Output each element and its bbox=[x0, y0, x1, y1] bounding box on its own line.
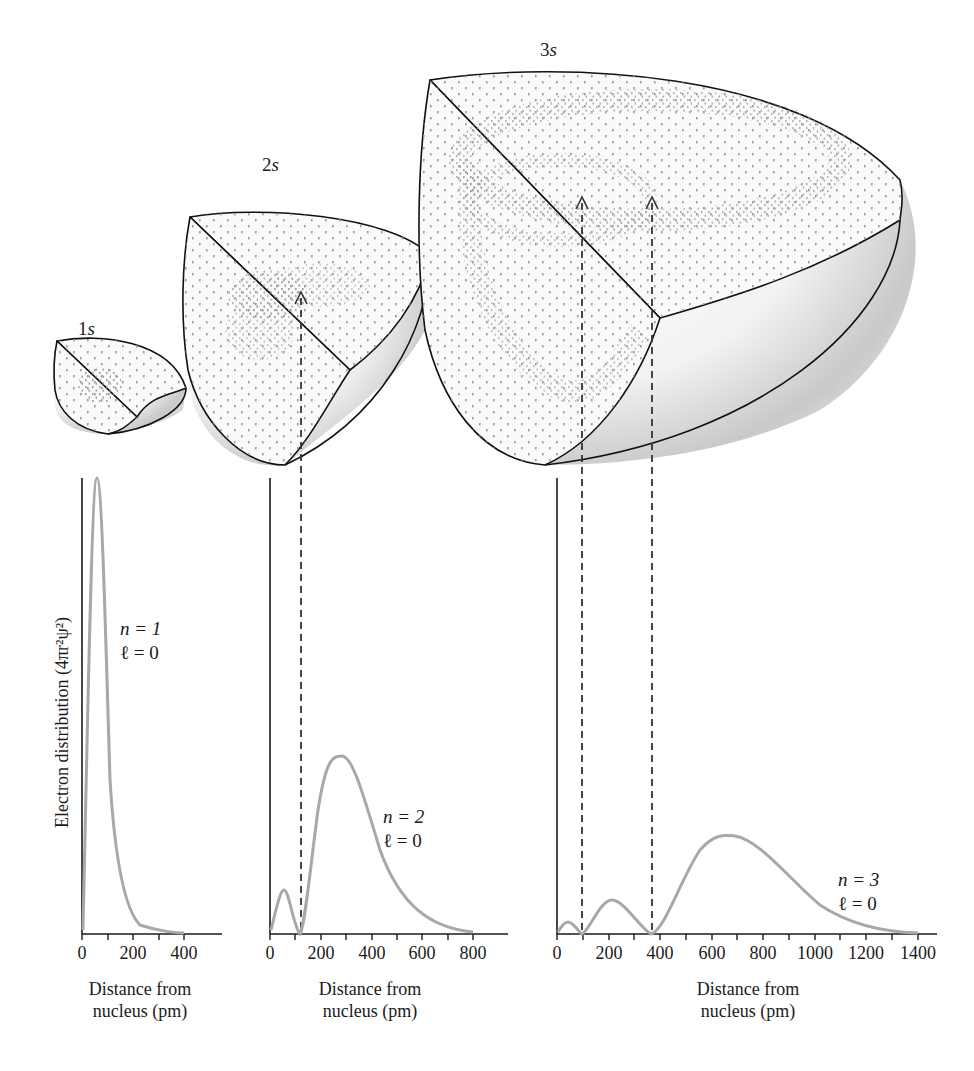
plot-1s bbox=[82, 478, 222, 940]
tick-label: 600 bbox=[699, 943, 726, 964]
orbital-letter: s bbox=[272, 154, 279, 175]
annotation-1s: n = 1 ℓ = 0 bbox=[120, 617, 161, 665]
tick-label: 1000 bbox=[797, 943, 833, 964]
n-label: n = 1 bbox=[120, 617, 161, 641]
tick-label: 0 bbox=[553, 943, 562, 964]
x-axis-label-line1: Distance from bbox=[89, 978, 191, 1000]
tick-label: 0 bbox=[266, 943, 275, 964]
curve-1s bbox=[83, 478, 184, 933]
x-axis-label-2s: Distance from nucleus (pm) bbox=[319, 978, 421, 1022]
x-axis-label-line1: Distance from bbox=[697, 978, 799, 1000]
tick-label: 400 bbox=[647, 943, 674, 964]
orbital-number: 3 bbox=[540, 39, 550, 60]
tick-label: 400 bbox=[359, 943, 386, 964]
tick-label: 400 bbox=[171, 943, 198, 964]
tick-label: 1400 bbox=[900, 943, 936, 964]
orbital-letter: s bbox=[88, 318, 95, 339]
plot-2s bbox=[270, 478, 508, 940]
annotation-3s: n = 3 ℓ = 0 bbox=[838, 868, 879, 916]
tick-label: 200 bbox=[596, 943, 623, 964]
n-label: n = 3 bbox=[838, 868, 879, 892]
orbital-number: 2 bbox=[262, 154, 272, 175]
plot-3s bbox=[557, 478, 937, 940]
x-axis-label-line2: nucleus (pm) bbox=[319, 1000, 421, 1022]
orbital-figure: 1s 2s 3s Electron distribution (4πr²ψ²) … bbox=[0, 0, 974, 1071]
orbital-letter: s bbox=[550, 39, 557, 60]
orbital-label-1s: 1s bbox=[78, 318, 95, 340]
orbital-label-2s: 2s bbox=[262, 154, 279, 176]
x-axis-label-1s: Distance from nucleus (pm) bbox=[89, 978, 191, 1022]
x-axis-label-line1: Distance from bbox=[319, 978, 421, 1000]
figure-graphics bbox=[0, 0, 974, 1071]
tick-label: 200 bbox=[120, 943, 147, 964]
tick-label: 800 bbox=[750, 943, 777, 964]
orbital-label-3s: 3s bbox=[540, 39, 557, 61]
n-label: n = 2 bbox=[383, 805, 424, 829]
orbital-1s-sphere bbox=[52, 336, 186, 434]
l-label: ℓ = 0 bbox=[838, 892, 879, 916]
tick-label: 800 bbox=[460, 943, 487, 964]
l-label: ℓ = 0 bbox=[120, 641, 161, 665]
tick-label: 200 bbox=[308, 943, 335, 964]
tick-label: 0 bbox=[78, 943, 87, 964]
x-axis-label-3s: Distance from nucleus (pm) bbox=[697, 978, 799, 1022]
x-axis-label-line2: nucleus (pm) bbox=[89, 1000, 191, 1022]
x-axis-label-line2: nucleus (pm) bbox=[697, 1000, 799, 1022]
annotation-2s: n = 2 ℓ = 0 bbox=[383, 805, 424, 853]
l-label: ℓ = 0 bbox=[383, 829, 424, 853]
tick-label: 600 bbox=[409, 943, 436, 964]
y-axis-label: Electron distribution (4πr²ψ²) bbox=[52, 617, 73, 828]
orbital-2s-sphere bbox=[183, 210, 430, 465]
orbital-number: 1 bbox=[78, 318, 88, 339]
tick-label: 1200 bbox=[848, 943, 884, 964]
orbital-3s-sphere bbox=[418, 72, 916, 465]
